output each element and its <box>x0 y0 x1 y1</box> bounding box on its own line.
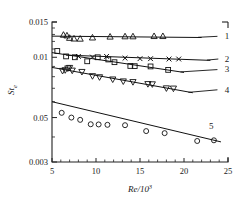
data-point-circle <box>195 138 200 143</box>
leader-line-series-2 <box>207 59 218 60</box>
data-point-circle <box>96 122 101 127</box>
trend-line-series-3 <box>52 53 184 73</box>
series-label-5: 5 <box>209 121 214 131</box>
data-point-circle <box>162 131 167 136</box>
x-tick-label: 10 <box>92 166 101 176</box>
data-point-circle <box>123 123 128 128</box>
data-point-circle <box>105 122 110 127</box>
axis-frame <box>52 22 228 162</box>
y-axis-title-subscript: e <box>11 85 18 88</box>
x-axis-title-exponent: 3 <box>148 184 152 190</box>
x-tick-label: 20 <box>180 166 189 176</box>
data-point-triangle-up <box>130 33 136 39</box>
data-point-triangle-up <box>89 34 95 40</box>
leader-line-series-3 <box>180 70 217 72</box>
data-point-circle <box>144 129 149 134</box>
y-tick-label: 0.05 <box>33 113 48 123</box>
series-4-points <box>59 65 176 91</box>
data-markers <box>55 32 217 144</box>
tick-labels: 0.0150.010.050.003510152025 <box>29 17 232 176</box>
y-tick-label: 0.01 <box>33 52 48 62</box>
data-point-triangle-down <box>110 77 116 83</box>
chart-figure: 0.0150.010.050.003510152025 12345 Ste Re… <box>0 0 249 200</box>
leader-line-series-1 <box>198 36 217 37</box>
series-5-points <box>59 110 216 143</box>
x-axis-title: Re/103 <box>127 184 152 194</box>
scatter-plot: 0.0150.010.050.003510152025 12345 Ste Re… <box>0 0 249 200</box>
y-tick-label: 0.015 <box>29 17 48 27</box>
series-3-points <box>55 49 171 73</box>
x-tick-label: 25 <box>224 166 233 176</box>
data-point-circle <box>59 110 64 115</box>
data-point-square <box>85 59 90 64</box>
y-axis-title: Ste <box>6 85 18 95</box>
x-tick-label: 5 <box>50 166 54 176</box>
x-tick-label: 15 <box>136 166 145 176</box>
leader-lines <box>180 36 218 92</box>
x-axis-title-main: Re/10 <box>127 184 149 194</box>
series-label-3: 3 <box>225 64 230 74</box>
fit-lines <box>52 36 221 142</box>
trend-line-series-5 <box>52 102 221 142</box>
leader-line-series-4 <box>188 90 217 93</box>
data-point-triangle-up <box>122 33 128 39</box>
data-point-triangle-down <box>120 79 126 85</box>
series-label-4: 4 <box>225 85 230 95</box>
tick-marks <box>52 22 228 162</box>
series-labels: 12345 <box>209 31 230 131</box>
data-point-triangle-up <box>160 33 166 39</box>
data-point-triangle-up <box>151 33 157 39</box>
data-point-circle <box>88 122 93 127</box>
data-point-circle <box>69 115 74 120</box>
data-point-circle <box>78 117 83 122</box>
series-label-1: 1 <box>225 31 230 41</box>
y-tick-label: 0.003 <box>29 157 48 167</box>
series-label-2: 2 <box>225 54 230 64</box>
